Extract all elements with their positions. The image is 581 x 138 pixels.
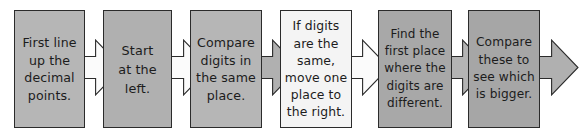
flow-step-2: Start at the left.	[103, 10, 172, 128]
flow-step-4-label: If digits are the same, move one place t…	[281, 17, 351, 120]
arrow-step6-to-end	[534, 40, 578, 95]
flow-step-5: Find the first place where the digits ar…	[378, 10, 452, 128]
flow-step-1: First line up the decimal points.	[14, 10, 85, 128]
flow-step-2-label: Start at the left.	[104, 41, 171, 98]
flow-step-4: If digits are the same, move one place t…	[280, 10, 352, 128]
flow-step-6: Compare these to see which is bigger.	[468, 10, 540, 128]
flowchart-diagram: First line up the decimal points. Start …	[0, 0, 581, 138]
flow-step-3-label: Compare digits in the same place.	[191, 34, 261, 104]
flow-step-1-label: First line up the decimal points.	[15, 34, 84, 104]
flow-step-3: Compare digits in the same place.	[190, 10, 262, 128]
flow-step-6-label: Compare these to see which is bigger.	[469, 34, 539, 104]
flow-step-5-label: Find the first place where the digits ar…	[379, 26, 451, 112]
